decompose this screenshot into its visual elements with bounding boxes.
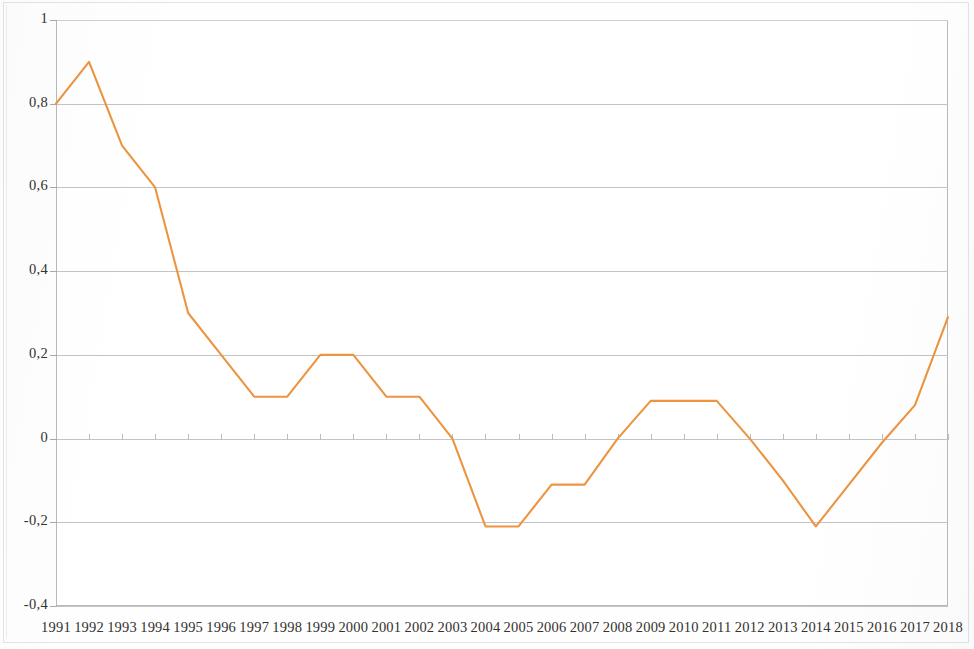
x-tick-mark [816, 434, 817, 440]
x-axis-tick-label-2006: 2006 [537, 619, 567, 636]
x-tick-mark [882, 434, 883, 440]
x-axis-tick-label-2012: 2012 [735, 619, 765, 636]
x-axis-tick-label-1999: 1999 [305, 619, 335, 636]
y-axis-tick-label: 0,2 [0, 345, 48, 362]
y-axis-tick-label: 0,4 [0, 261, 48, 278]
x-axis-tick-label-1994: 1994 [140, 619, 170, 636]
gridline--02 [56, 522, 948, 523]
x-axis-tick-label-1991: 1991 [41, 619, 71, 636]
x-tick-mark [287, 434, 288, 440]
gridline--04 [56, 606, 948, 607]
x-axis-tick-label-2005: 2005 [504, 619, 534, 636]
x-tick-mark [783, 434, 784, 440]
x-axis-tick-label-2001: 2001 [371, 619, 401, 636]
gridline-02 [56, 355, 948, 356]
gridline-08 [56, 104, 948, 105]
gridline-06 [56, 187, 948, 188]
y-tick-mark [50, 271, 57, 272]
x-tick-mark [552, 434, 553, 440]
x-axis-tick-label-2003: 2003 [438, 619, 468, 636]
gridline-04 [56, 271, 948, 272]
y-axis-tick-label: 0,6 [0, 177, 48, 194]
x-axis-tick-label-2010: 2010 [669, 619, 699, 636]
y-tick-mark [50, 104, 57, 105]
y-tick-mark [50, 187, 57, 188]
x-tick-mark [485, 434, 486, 440]
y-tick-mark [50, 606, 57, 607]
x-axis-tick-label-2018: 2018 [933, 619, 963, 636]
y-axis-tick-label: 1 [0, 10, 48, 27]
x-axis-tick-label-1996: 1996 [206, 619, 236, 636]
x-axis-tick-label-2009: 2009 [636, 619, 666, 636]
x-tick-mark [915, 434, 916, 440]
x-tick-mark [750, 434, 751, 440]
x-axis-tick-label-1992: 1992 [74, 619, 104, 636]
x-tick-mark [320, 434, 321, 440]
y-tick-mark [50, 355, 57, 356]
x-axis-tick-label-2002: 2002 [405, 619, 435, 636]
y-tick-mark [50, 20, 57, 21]
x-tick-mark [419, 434, 420, 440]
x-tick-mark [89, 434, 90, 440]
x-tick-mark [122, 434, 123, 440]
x-axis-tick-label-1997: 1997 [239, 619, 269, 636]
x-tick-mark [221, 434, 222, 440]
x-tick-mark [254, 434, 255, 440]
y-axis-tick-label: -0,2 [0, 512, 48, 529]
x-tick-mark [353, 434, 354, 440]
y-tick-mark [50, 522, 57, 523]
x-axis-tick-label-2011: 2011 [702, 619, 731, 636]
x-tick-mark [684, 434, 685, 440]
x-axis-tick-label-2014: 2014 [801, 619, 831, 636]
line-chart-figure: 10,80,60,40,20-0,2-0,4 19911992199319941… [0, 0, 974, 649]
gridline-0 [56, 439, 948, 440]
x-tick-mark [519, 434, 520, 440]
x-axis-tick-label-2017: 2017 [900, 619, 930, 636]
x-axis-tick-label-1993: 1993 [107, 619, 137, 636]
y-axis-tick-label: 0 [0, 429, 48, 446]
x-axis-tick-label-2016: 2016 [867, 619, 897, 636]
x-tick-mark [452, 434, 453, 440]
x-tick-mark [386, 434, 387, 440]
x-axis-tick-label-1995: 1995 [173, 619, 203, 636]
plot-area [56, 20, 948, 606]
y-axis-tick-label: -0,4 [0, 596, 48, 613]
x-axis-tick-label-1998: 1998 [272, 619, 302, 636]
x-tick-mark [849, 434, 850, 440]
x-axis-tick-label-2004: 2004 [471, 619, 501, 636]
x-tick-mark [155, 434, 156, 440]
x-tick-mark [188, 434, 189, 440]
x-axis-tick-label-2000: 2000 [338, 619, 368, 636]
x-tick-mark [585, 434, 586, 440]
y-axis-tick-label: 0,8 [0, 94, 48, 111]
x-tick-mark [717, 434, 718, 440]
x-axis-tick-label-2007: 2007 [570, 619, 600, 636]
gridline-1 [56, 20, 948, 21]
x-tick-mark [618, 434, 619, 440]
x-tick-mark [651, 434, 652, 440]
x-tick-mark [948, 434, 949, 440]
x-axis-tick-label-2015: 2015 [834, 619, 864, 636]
x-axis-tick-label-2008: 2008 [603, 619, 633, 636]
x-axis-tick-label-2013: 2013 [768, 619, 798, 636]
y-tick-mark [50, 439, 57, 440]
